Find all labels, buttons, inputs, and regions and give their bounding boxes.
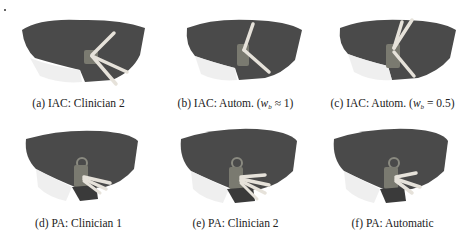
caption-prefix: IAC: Autom. (: [194, 97, 261, 109]
figure: (a) IAC: Clinician 2 (b) IAC: Autom. (wb…: [0, 0, 471, 242]
caption-e: (e) PA: Clinician 2: [157, 217, 314, 229]
caption-f: (f) PA: Automatic: [314, 217, 471, 229]
subfigure-d: (d) PA: Clinician 1: [0, 121, 157, 242]
subfigure-e: (e) PA: Clinician 2: [157, 121, 314, 242]
caption-suffix: = 0.5): [424, 97, 454, 109]
subfigure-label: (f): [352, 217, 364, 229]
caption-d: (d) PA: Clinician 1: [0, 217, 157, 229]
subfigure-label: (c): [330, 97, 343, 109]
subfigure-label: (b): [178, 97, 191, 109]
subfigure-label: (d): [35, 217, 48, 229]
liver-render-e: [157, 121, 314, 216]
liver-render-b: [157, 0, 314, 95]
subfigure-c: (c) IAC: Autom. (wb = 0.5): [314, 0, 471, 121]
subfigure-f: (f) PA: Automatic: [314, 121, 471, 242]
subfigure-a: (a) IAC: Clinician 2: [0, 0, 157, 121]
subfigure-label: (e): [192, 217, 205, 229]
caption-a: (a) IAC: Clinician 2: [0, 97, 157, 109]
caption-b: (b) IAC: Autom. (wb ≈ 1): [157, 97, 314, 111]
liver-render-f: [314, 121, 471, 216]
subfigure-b: (b) IAC: Autom. (wb ≈ 1): [157, 0, 314, 121]
caption-prefix: IAC: Autom. (: [346, 97, 413, 109]
caption-variable: w: [413, 97, 421, 109]
subfigure-caption-text: PA: Clinician 1: [51, 217, 122, 229]
subfigure-label: (a): [32, 97, 45, 109]
caption-c: (c) IAC: Autom. (wb = 0.5): [314, 97, 471, 111]
subfigure-caption-text: IAC: Clinician 2: [48, 97, 125, 109]
subfigure-caption-text: PA: Automatic: [366, 217, 434, 229]
subfigure-caption-text: PA: Clinician 2: [208, 217, 279, 229]
liver-render-a: [0, 0, 157, 95]
caption-suffix: ≈ 1): [272, 97, 294, 109]
liver-render-d: [0, 121, 157, 216]
liver-render-c: [314, 0, 471, 95]
